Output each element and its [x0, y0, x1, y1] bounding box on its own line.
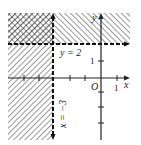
label-tick-y1: 1	[90, 56, 95, 66]
label-x-eq-neg3: x = −3	[57, 100, 68, 129]
label-tick-x1: 1	[114, 83, 119, 93]
inequality-graph: y = 2 O x y 1 1 x = −3	[0, 0, 141, 145]
label-y-axis: y	[91, 12, 97, 23]
label-origin: O	[91, 81, 98, 92]
label-x-axis: x	[123, 79, 129, 90]
label-y-eq-2: y = 2	[59, 47, 81, 58]
